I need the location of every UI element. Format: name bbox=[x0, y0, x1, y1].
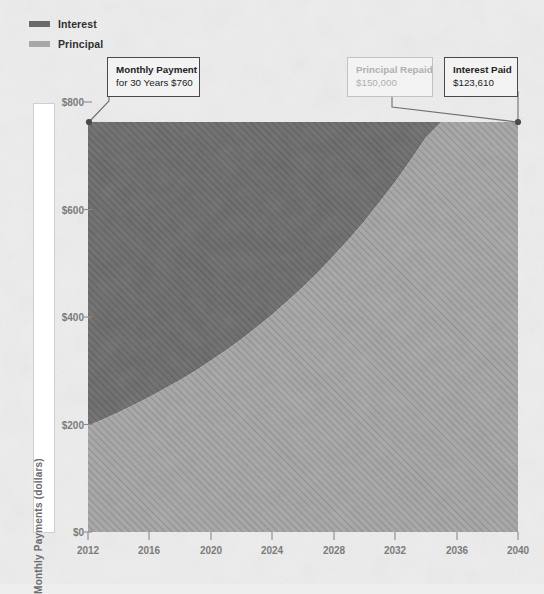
x-axis-ticks bbox=[88, 532, 518, 540]
marker-end bbox=[515, 119, 521, 125]
legend-swatch-principal bbox=[29, 41, 50, 47]
y-tick-200: $200 bbox=[62, 419, 84, 430]
plot-area bbox=[88, 122, 518, 532]
x-tick-2032: 2032 bbox=[384, 545, 406, 556]
x-tick-2012: 2012 bbox=[77, 545, 99, 556]
annotation-monthly-payment-line1: Monthly Payment bbox=[116, 64, 191, 77]
y-tick-0: $0 bbox=[73, 527, 84, 538]
legend-label-principal: Principal bbox=[58, 38, 103, 50]
x-tick-2024: 2024 bbox=[261, 545, 283, 556]
annotation-monthly-payment-line2: for 30 Years $760 bbox=[116, 77, 191, 90]
x-tick-2020: 2020 bbox=[200, 545, 222, 556]
annotation-monthly-payment[interactable]: Monthly Payment for 30 Years $760 bbox=[107, 57, 200, 97]
annotation-principal-repaid[interactable]: Principal Repaid $150,000 bbox=[347, 57, 433, 97]
leader-monthly-payment bbox=[89, 91, 109, 122]
chart-legend: Interest Principal bbox=[29, 15, 103, 55]
y-tick-800: $800 bbox=[62, 97, 84, 108]
x-axis-tick-labels: 2012 2016 2020 2024 2028 2032 2036 2040 bbox=[0, 545, 544, 565]
x-tick-2016: 2016 bbox=[138, 545, 160, 556]
legend-swatch-interest bbox=[29, 21, 50, 27]
legend-item-interest[interactable]: Interest bbox=[29, 15, 103, 32]
marker-start bbox=[86, 119, 92, 125]
legend-item-principal[interactable]: Principal bbox=[29, 35, 103, 52]
x-tick-2028: 2028 bbox=[323, 545, 345, 556]
annotation-interest-paid[interactable]: Interest Paid $123,610 bbox=[444, 57, 518, 97]
annotation-principal-repaid-line2: $150,000 bbox=[356, 77, 424, 90]
x-tick-2036: 2036 bbox=[446, 545, 468, 556]
annotation-principal-repaid-line1: Principal Repaid bbox=[356, 64, 424, 77]
y-tick-400: $400 bbox=[62, 312, 84, 323]
y-axis-label-box: Monthly Payments (dollars) bbox=[33, 103, 55, 533]
legend-label-interest: Interest bbox=[58, 18, 97, 30]
y-axis-label: Monthly Payments (dollars) bbox=[33, 458, 44, 594]
y-tick-600: $600 bbox=[62, 204, 84, 215]
x-tick-2040: 2040 bbox=[507, 545, 529, 556]
y-axis-tick-labels: $0 $200 $400 $600 $800 bbox=[56, 0, 84, 584]
annotation-interest-paid-line2: $123,610 bbox=[453, 77, 509, 90]
annotation-interest-paid-line1: Interest Paid bbox=[453, 64, 509, 77]
